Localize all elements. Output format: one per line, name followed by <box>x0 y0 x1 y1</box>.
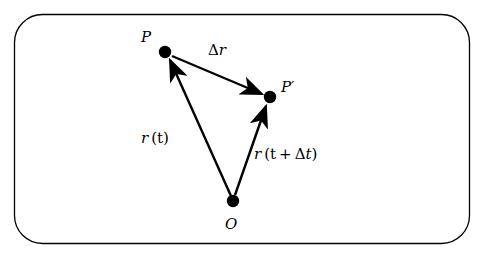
prime-mark: ′ <box>291 78 294 96</box>
label-point-P-prime-base: P <box>281 78 291 96</box>
delta-symbol: Δ <box>295 145 306 163</box>
label-point-O: O <box>225 217 237 232</box>
argument-open: (t <box>264 145 276 163</box>
point-P-prime <box>264 91 276 103</box>
point-P <box>159 46 171 58</box>
label-delta-r: Δr <box>208 43 226 58</box>
label-r-of-t: r (t) <box>141 131 169 146</box>
label-point-P: P <box>141 30 151 45</box>
label-point-P-prime: P′ <box>281 80 295 95</box>
argument-t: (t) <box>151 129 169 147</box>
argument-close: ) <box>312 145 318 163</box>
frame-border <box>15 15 470 244</box>
delta-symbol: Δ <box>208 41 219 59</box>
label-point-P-text: P <box>141 28 151 46</box>
r-symbol: r <box>219 41 226 59</box>
plus-symbol: + <box>279 145 292 163</box>
label-point-O-text: O <box>225 215 237 233</box>
label-r-of-t-plus-delta-t: r (t + Δt) <box>254 147 317 162</box>
figure-svg <box>0 0 484 258</box>
vector-displacement-diagram: P P′ O Δr r (t) r (t + Δt) <box>0 0 484 258</box>
point-O <box>227 195 239 207</box>
